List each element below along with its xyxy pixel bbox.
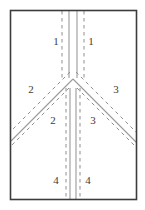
diagram-canvas: 11232344 <box>0 0 145 210</box>
label-2-lower: 2 <box>50 114 56 126</box>
label-1-left: 1 <box>53 35 59 47</box>
label-3-lower: 3 <box>90 114 96 126</box>
lane-junction-diagram: 11232344 <box>0 0 145 210</box>
label-1-right: 1 <box>88 35 94 47</box>
label-4-right: 4 <box>85 174 91 186</box>
label-4-left: 4 <box>53 174 59 186</box>
label-3-upper: 3 <box>113 83 119 95</box>
diagram-background <box>0 0 145 210</box>
label-2-upper: 2 <box>28 83 34 95</box>
